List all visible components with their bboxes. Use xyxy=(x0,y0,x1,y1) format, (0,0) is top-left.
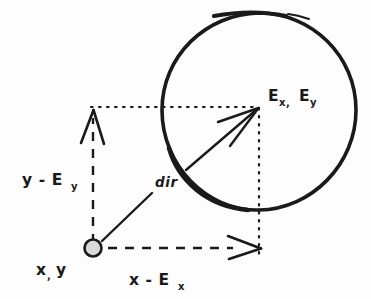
origin-point-marker xyxy=(85,240,102,257)
horizontal-leg-base: x - E xyxy=(129,271,170,289)
origin-label-x: x xyxy=(36,261,47,279)
horizontal-component-arrow xyxy=(108,236,261,259)
horizontal-leg-sub: x xyxy=(178,281,185,292)
vertical-leg-sub: y xyxy=(71,181,78,192)
vertical-leg-label: y - E y xyxy=(22,171,78,192)
vertical-component-arrow xyxy=(81,110,104,243)
origin-label-y: y xyxy=(56,261,67,279)
diagram-canvas: x , y E x, E y y - E y x - E x dir xyxy=(0,0,371,299)
target-label-e-y: E xyxy=(299,87,310,105)
target-label-e-x: E xyxy=(268,87,279,105)
target-point-label: E x, E y xyxy=(268,87,317,108)
origin-point-label: x , y xyxy=(36,261,67,281)
direction-vector-label: dir xyxy=(155,174,178,190)
vector-diagram-svg: x , y E x, E y y - E y x - E x dir xyxy=(0,0,371,299)
origin-label-comma: , xyxy=(47,270,51,281)
horizontal-leg-label: x - E x xyxy=(129,271,185,292)
dir-label-text: dir xyxy=(155,174,178,190)
target-label-sub-x: x, xyxy=(279,97,290,108)
target-label-sub-y: y xyxy=(310,97,317,108)
vertical-leg-base: y - E xyxy=(22,171,63,189)
